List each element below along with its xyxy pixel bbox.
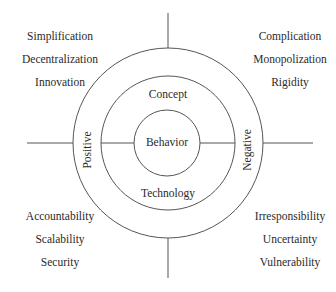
positive-label: Positive — [82, 131, 94, 168]
top-left-list: Simplification Decentralization Innovati… — [10, 30, 110, 89]
concept-label: Concept — [149, 89, 187, 101]
top-right-list: Complication Monopolization Rigidity — [245, 30, 335, 89]
technology-label: Technology — [141, 188, 195, 200]
list-item: Complication — [259, 30, 322, 43]
list-item: Monopolization — [253, 53, 326, 66]
list-item: Security — [41, 256, 79, 269]
list-item: Rigidity — [271, 76, 309, 89]
list-item: Irresponsibility — [255, 210, 325, 223]
list-item: Scalability — [35, 233, 84, 246]
negative-label: Negative — [242, 129, 254, 171]
list-item: Uncertainty — [263, 233, 317, 246]
list-item: Accountability — [26, 210, 94, 223]
bottom-left-list: Accountability Scalability Security — [10, 210, 110, 269]
list-item: Vulnerability — [260, 256, 321, 269]
center-label: Behavior — [146, 137, 188, 149]
list-item: Simplification — [27, 30, 93, 43]
bottom-right-list: Irresponsibility Uncertainty Vulnerabili… — [245, 210, 335, 269]
list-item: Innovation — [35, 76, 85, 89]
list-item: Decentralization — [22, 53, 98, 66]
